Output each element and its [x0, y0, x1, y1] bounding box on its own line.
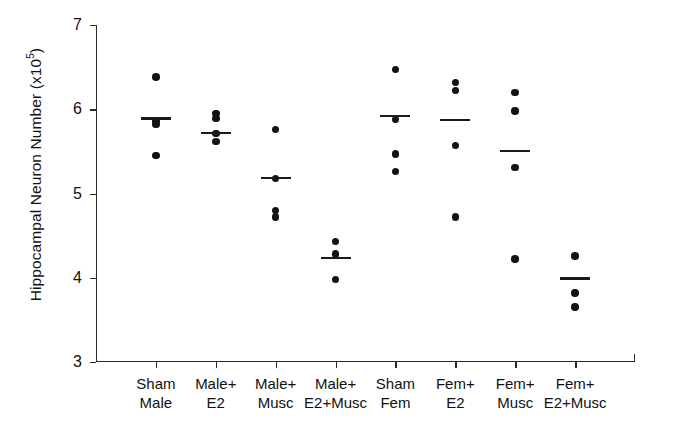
data-point: [152, 121, 160, 129]
group-mean-line: [560, 277, 590, 279]
x-axis-tick: [575, 361, 576, 368]
y-axis-tick: 5: [90, 194, 96, 195]
data-point: [212, 115, 220, 123]
group-mean-line: [201, 132, 231, 134]
data-point: [392, 168, 400, 176]
y-axis-tick-label: 3: [73, 352, 82, 372]
y-axis-tick: 4: [90, 278, 96, 279]
data-point: [571, 289, 579, 297]
data-point: [452, 213, 460, 221]
x-axis-tick: [336, 361, 337, 368]
group-mean-line: [500, 150, 530, 152]
y-axis-title-suffix: ): [27, 48, 44, 53]
x-axis-tick: [455, 361, 456, 368]
data-point: [272, 126, 280, 134]
data-point: [511, 164, 519, 172]
data-point: [452, 87, 460, 95]
y-axis-tick: 3: [90, 362, 96, 363]
group-label-line2: E2+Musc: [533, 393, 617, 412]
data-point: [452, 79, 460, 87]
x-axis-tick: [515, 361, 516, 368]
group-label-line1: Fem+: [533, 374, 617, 393]
data-point: [511, 255, 519, 263]
y-axis-title: Hippocampal Neuron Number (x105): [25, 10, 44, 340]
x-axis-tick: [395, 361, 396, 368]
data-point: [272, 213, 280, 221]
x-axis-line: [96, 361, 635, 362]
x-axis-group-label: Fem+E2+Musc: [533, 374, 617, 412]
data-point: [332, 238, 340, 246]
group-mean-line: [141, 117, 171, 119]
y-axis-tick-label: 5: [73, 184, 82, 204]
plot-area: 34567ShamMaleMale+E2Male+MuscMale+E2+Mus…: [96, 25, 635, 362]
data-point: [332, 276, 340, 284]
data-point: [212, 138, 220, 146]
data-point: [452, 142, 460, 150]
y-axis-title-text: Hippocampal Neuron Number (x10: [27, 59, 44, 302]
data-point: [392, 150, 400, 158]
figure-panel: Hippocampal Neuron Number (x105) 34567Sh…: [0, 0, 673, 435]
y-axis-tick-label: 4: [73, 268, 82, 288]
y-axis-tick-label: 6: [73, 99, 82, 119]
group-mean-line: [261, 177, 291, 179]
y-axis-tick: 6: [90, 109, 96, 110]
group-mean-line: [380, 115, 410, 117]
y-axis-tick: 7: [90, 25, 96, 26]
data-point: [152, 73, 160, 81]
data-point: [511, 89, 519, 97]
data-point: [571, 252, 579, 260]
x-axis-tick: [156, 361, 157, 368]
group-mean-line: [321, 257, 351, 259]
data-point: [152, 152, 160, 160]
x-axis-tick: [216, 361, 217, 368]
y-axis-line: [96, 25, 97, 362]
data-point: [392, 66, 400, 74]
data-point: [571, 303, 579, 311]
data-point: [511, 107, 519, 115]
group-mean-line: [440, 119, 470, 121]
x-axis-end-cap: [634, 354, 635, 362]
y-axis-tick-label: 7: [73, 15, 82, 35]
y-axis-title-exponent: 5: [25, 53, 36, 59]
x-axis-tick: [276, 361, 277, 368]
